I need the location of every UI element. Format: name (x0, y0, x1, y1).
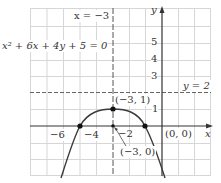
x-intercept-right-point (142, 123, 147, 128)
equation-label: x² + 6x + 4y + 5 = 0 (1, 40, 108, 52)
x-axis-label: x (205, 128, 211, 140)
symmetry-line-label: x = −3 (72, 10, 111, 22)
directrix-label: y = 2 (182, 80, 211, 92)
y-tick-5: 5 (151, 36, 157, 48)
y-axis-label: y (151, 4, 157, 16)
x-intercept-left-point (77, 123, 82, 128)
y-tick-1: 1 (152, 103, 158, 115)
x-tick-neg4: −4 (84, 129, 99, 141)
y-tick-4: 4 (151, 53, 157, 65)
x-tick-neg6: −6 (50, 129, 65, 141)
origin-label: (0, 0) (164, 128, 193, 140)
x-tick-neg2: −2 (118, 128, 133, 140)
focus-label: (−3, 0) (119, 146, 156, 158)
vertex-label: (−3, 1) (114, 94, 151, 106)
y-tick-3: 3 (151, 70, 157, 82)
vertex-point (110, 106, 115, 111)
